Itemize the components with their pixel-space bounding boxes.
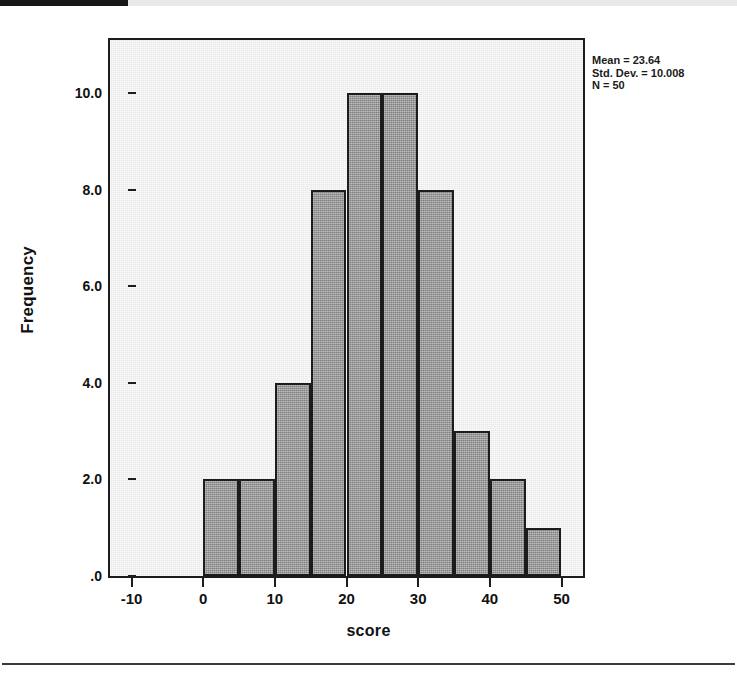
histogram-bar xyxy=(275,383,311,576)
y-axis-tick-mark xyxy=(128,382,136,384)
x-axis-tick-label: 20 xyxy=(317,590,377,607)
histogram-bar xyxy=(347,93,383,576)
plot-frame xyxy=(108,38,585,578)
x-axis-tick-mark xyxy=(131,578,133,587)
y-axis-tick-label: .0 xyxy=(38,568,102,584)
histogram-bar xyxy=(311,190,347,576)
y-axis-tick-labels: .02.04.06.08.010.0 xyxy=(28,0,102,677)
y-axis-tick-label: 8.0 xyxy=(38,182,102,198)
x-axis-tick-label: 0 xyxy=(173,590,233,607)
y-axis-tick-mark xyxy=(128,478,136,480)
histogram-figure: .02.04.06.08.010.0 Frequency -1001020304… xyxy=(0,0,737,677)
y-axis-tick-mark xyxy=(128,189,136,191)
y-axis-tick-mark xyxy=(128,285,136,287)
y-axis-tick-label: 2.0 xyxy=(38,471,102,487)
histogram-bar xyxy=(490,479,526,576)
y-axis-tick-label: 4.0 xyxy=(38,375,102,391)
x-axis-tick-label: 30 xyxy=(388,590,448,607)
statistics-annotation: Mean = 23.64 Std. Dev. = 10.008 N = 50 xyxy=(592,54,684,92)
x-axis-tick-mark xyxy=(274,578,276,587)
histogram-bar xyxy=(382,93,418,576)
histogram-bar xyxy=(203,479,239,576)
stat-n: N = 50 xyxy=(592,79,684,92)
x-axis-tick-mark xyxy=(346,578,348,587)
histogram-bar xyxy=(239,479,275,576)
y-axis-tick-mark xyxy=(128,92,136,94)
x-axis-tick-label: 50 xyxy=(532,590,592,607)
histogram-bar xyxy=(418,190,454,576)
x-axis-tick-label: -10 xyxy=(102,590,162,607)
x-axis-tick-label: 10 xyxy=(245,590,305,607)
x-axis-tick-mark xyxy=(489,578,491,587)
y-axis-title: Frequency xyxy=(18,246,38,334)
x-axis-tick-mark xyxy=(417,578,419,587)
x-axis-tick-mark xyxy=(202,578,204,587)
y-axis-tick-mark xyxy=(128,575,136,577)
plot-area xyxy=(110,40,583,576)
y-axis-tick-label: 10.0 xyxy=(38,85,102,101)
x-axis-title: score xyxy=(0,622,737,640)
histogram-bar xyxy=(526,528,562,576)
stat-std-dev: Std. Dev. = 10.008 xyxy=(592,67,684,80)
x-axis-tick-mark xyxy=(561,578,563,587)
y-axis-tick-label: 6.0 xyxy=(38,278,102,294)
x-axis-tick-label: 40 xyxy=(460,590,520,607)
histogram-bar xyxy=(454,431,490,576)
stat-mean: Mean = 23.64 xyxy=(592,54,684,67)
